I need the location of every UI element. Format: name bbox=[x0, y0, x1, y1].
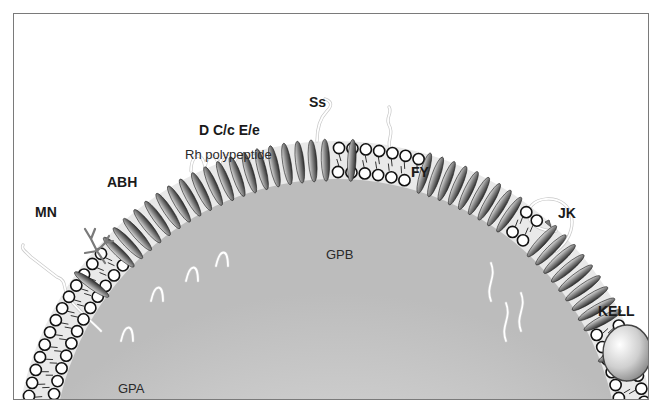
phospholipid-head-inner bbox=[332, 166, 343, 177]
phospholipid-head-outer bbox=[521, 207, 532, 218]
label-fy: FY bbox=[411, 164, 429, 180]
lipid-tail bbox=[35, 397, 42, 398]
label-gpb: GPB bbox=[326, 247, 353, 262]
phospholipid-head-outer bbox=[34, 352, 45, 363]
phospholipid-head-outer bbox=[374, 145, 385, 156]
phospholipid-head-inner bbox=[56, 363, 67, 374]
lipid-tail bbox=[50, 347, 57, 348]
phospholipid-head-inner bbox=[517, 235, 528, 246]
phospholipid-head-inner bbox=[61, 350, 72, 361]
phospholipid-head-inner bbox=[85, 302, 96, 313]
phospholipid-head-outer bbox=[531, 215, 542, 226]
figure-frame: MN ABH D C/c E/e Rh polypeptide Ss FY JK… bbox=[13, 13, 649, 400]
phospholipid-head-outer bbox=[23, 390, 34, 400]
phospholipid-head-inner bbox=[610, 379, 621, 390]
phospholipid-head-outer bbox=[400, 150, 411, 161]
phospholipid-head-outer bbox=[39, 339, 50, 350]
lipid-tail bbox=[401, 166, 402, 173]
phospholipid-head-inner bbox=[386, 172, 397, 183]
phospholipid-head-outer bbox=[63, 291, 74, 302]
membrane-diagram bbox=[14, 14, 649, 400]
phospholipid-head-inner bbox=[72, 326, 83, 337]
phospholipid-head-outer bbox=[387, 148, 398, 159]
phospholipid-head-outer bbox=[50, 315, 61, 326]
phospholipid-head-outer bbox=[413, 153, 424, 164]
phospholipid-head-inner bbox=[48, 388, 59, 399]
phospholipid-head-outer bbox=[87, 258, 98, 269]
label-ss: Ss bbox=[309, 94, 326, 110]
phospholipid-head-inner bbox=[66, 338, 77, 349]
label-abh: ABH bbox=[107, 174, 137, 190]
phospholipid-head-inner bbox=[108, 270, 119, 281]
phospholipid-head-outer bbox=[44, 327, 55, 338]
phospholipid-head-outer bbox=[360, 144, 371, 155]
lipid-tail bbox=[54, 351, 61, 352]
phospholipid-head-inner bbox=[399, 175, 410, 186]
label-kell: KELL bbox=[598, 303, 635, 319]
kell-glycoprotein-sphere bbox=[603, 325, 649, 381]
phospholipid-head-inner bbox=[52, 375, 63, 386]
phospholipid-head-inner bbox=[591, 329, 602, 340]
phospholipid-head-outer bbox=[636, 383, 647, 394]
phospholipid-head-outer bbox=[30, 364, 41, 375]
phospholipid-head-inner bbox=[507, 226, 518, 237]
label-rh-antigens: D C/c E/e bbox=[199, 122, 260, 138]
phospholipid-head-inner bbox=[78, 314, 89, 325]
label-gpa: GPA bbox=[118, 381, 145, 396]
phospholipid-head-outer bbox=[57, 303, 68, 314]
label-jk: JK bbox=[558, 205, 576, 221]
phospholipid-head-inner bbox=[373, 169, 384, 180]
label-mn: MN bbox=[35, 204, 57, 220]
label-rh-polypeptide: Rh polypeptide bbox=[185, 147, 272, 162]
phospholipid-head-outer bbox=[333, 142, 344, 153]
phospholipid-head-outer bbox=[71, 280, 82, 291]
phospholipid-head-outer bbox=[27, 377, 38, 388]
phospholipid-head-inner bbox=[359, 168, 370, 179]
phospholipid-head-inner bbox=[613, 392, 624, 400]
